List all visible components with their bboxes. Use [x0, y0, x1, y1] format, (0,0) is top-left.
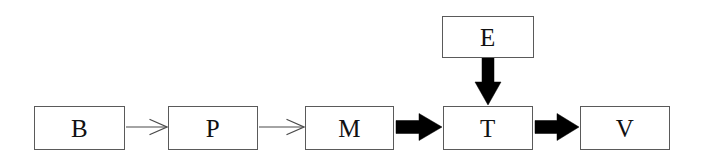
edge-e-to-t-arrow-body — [475, 58, 501, 105]
node-p[interactable]: P — [168, 106, 258, 150]
flow-diagram-canvas: E B P M T V — [0, 0, 703, 166]
node-e-label: E — [480, 25, 496, 50]
node-t-label: T — [480, 116, 496, 141]
node-b[interactable]: B — [34, 106, 125, 150]
edge-b-to-p-arrowhead — [150, 120, 167, 135]
edge-t-to-v-arrow-body — [535, 114, 579, 141]
node-v[interactable]: V — [580, 106, 670, 150]
edge-p-to-m — [259, 120, 304, 135]
node-v-label: V — [616, 116, 635, 141]
edge-b-to-p — [126, 120, 167, 135]
edge-m-to-t-arrow-body — [396, 114, 442, 141]
node-m-label: M — [338, 116, 361, 141]
edge-p-to-m-arrowhead — [287, 120, 304, 135]
node-e[interactable]: E — [442, 16, 534, 58]
edge-t-to-v — [535, 114, 579, 141]
edge-e-to-t — [475, 58, 501, 105]
node-b-label: B — [71, 116, 88, 141]
edge-m-to-t — [396, 114, 442, 141]
node-t[interactable]: T — [443, 106, 533, 150]
node-p-label: P — [206, 116, 220, 141]
node-m[interactable]: M — [305, 106, 394, 150]
